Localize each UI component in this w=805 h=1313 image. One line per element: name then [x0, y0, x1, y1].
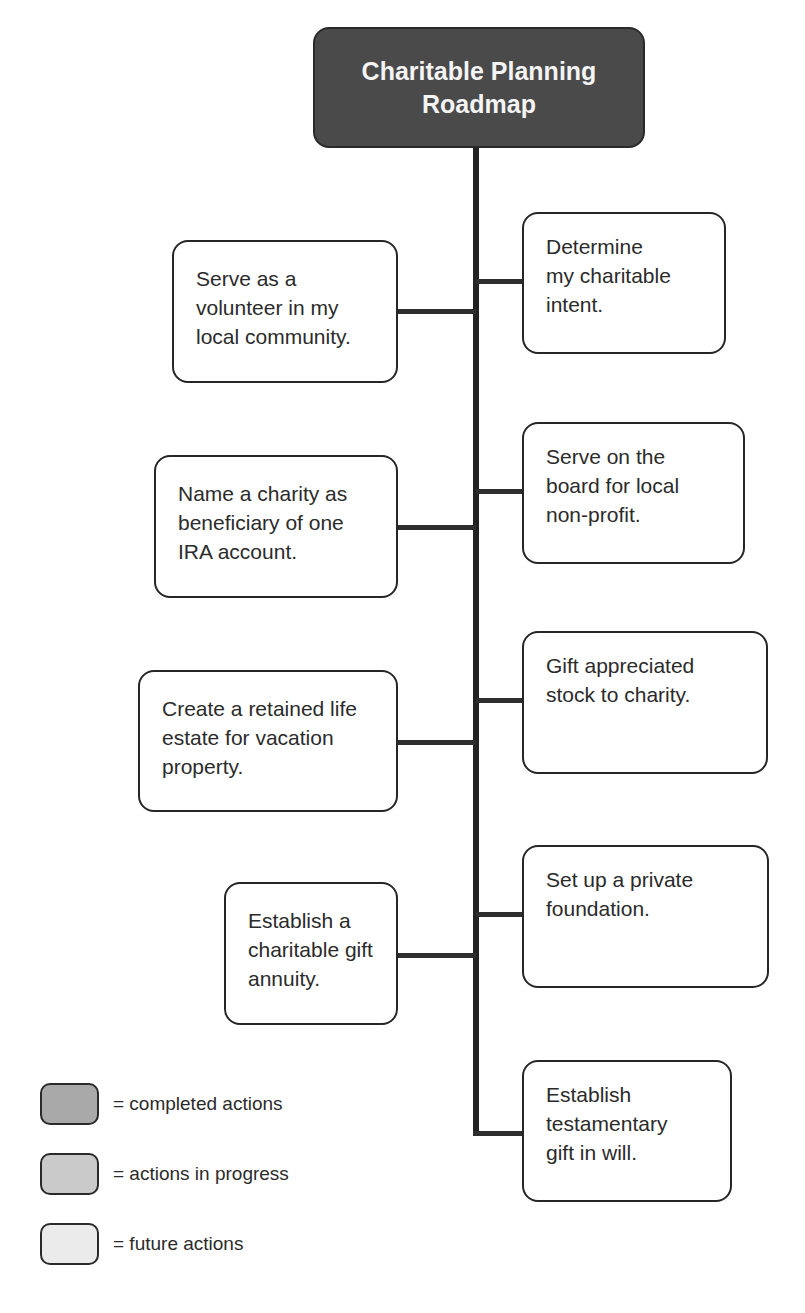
action-text: Establish testamentary gift in will. [546, 1083, 667, 1164]
legend-label: = future actions [113, 1233, 243, 1255]
action-text: Determine my charitable intent. [546, 235, 671, 316]
connector-right-2 [476, 489, 524, 494]
action-volunteer: Serve as a volunteer in my local communi… [172, 240, 398, 383]
connector-left-4 [396, 953, 476, 958]
swatch-future [40, 1223, 99, 1265]
timeline-spine [473, 148, 479, 1136]
roadmap-title-box: Charitable Planning Roadmap [313, 27, 645, 148]
legend-label: = completed actions [113, 1093, 283, 1115]
action-testamentary-gift: Establish testamentary gift in will. [522, 1060, 732, 1202]
connector-left-2 [396, 525, 476, 530]
swatch-completed [40, 1083, 99, 1125]
action-text: Gift appreciated stock to charity. [546, 654, 694, 706]
action-text: Name a charity as beneficiary of one IRA… [178, 482, 347, 563]
connector-right-4 [476, 912, 524, 917]
action-gift-annuity: Establish a charitable gift annuity. [224, 882, 398, 1025]
legend-label: = actions in progress [113, 1163, 289, 1185]
action-private-foundation: Set up a private foundation. [522, 845, 769, 988]
action-serve-board: Serve on the board for local non-profit. [522, 422, 745, 564]
swatch-in-progress [40, 1153, 99, 1195]
action-text: Create a retained life estate for vacati… [162, 697, 357, 778]
legend-in-progress: = actions in progress [40, 1153, 289, 1195]
connector-left-3 [396, 740, 476, 745]
roadmap-title: Charitable Planning Roadmap [362, 55, 597, 121]
action-text: Set up a private foundation. [546, 868, 693, 920]
connector-right-1 [476, 279, 524, 284]
action-retained-life-estate: Create a retained life estate for vacati… [138, 670, 398, 812]
action-text: Serve as a volunteer in my local communi… [196, 267, 351, 348]
action-gift-stock: Gift appreciated stock to charity. [522, 631, 768, 774]
action-text: Serve on the board for local non-profit. [546, 445, 679, 526]
connector-left-1 [396, 309, 476, 314]
legend-completed: = completed actions [40, 1083, 283, 1125]
legend-future: = future actions [40, 1223, 243, 1265]
action-ira-beneficiary: Name a charity as beneficiary of one IRA… [154, 455, 398, 598]
connector-right-5 [473, 1131, 525, 1136]
action-text: Establish a charitable gift annuity. [248, 909, 373, 990]
connector-right-3 [476, 698, 524, 703]
action-determine-intent: Determine my charitable intent. [522, 212, 726, 354]
